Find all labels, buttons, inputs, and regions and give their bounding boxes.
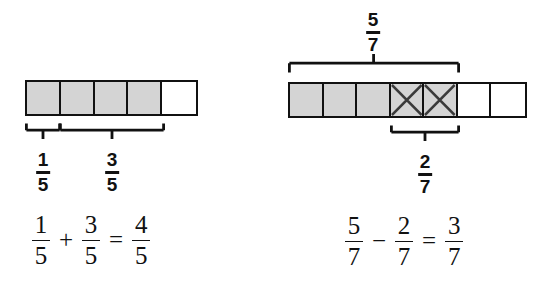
left-bar-cell-2	[61, 82, 95, 114]
left-label-three-fifths-denominator: 5	[107, 175, 118, 195]
left-equation-term-b: 3 5	[82, 212, 100, 269]
right-equation: 5 7 − 2 7 = 3 7	[343, 213, 465, 270]
left-equation-result-denominator: 5	[135, 243, 148, 269]
left-label-one-fifth-numerator: 1	[38, 150, 49, 170]
right-equation-result-denominator: 7	[448, 244, 461, 270]
left-equation-operator: +	[52, 226, 80, 254]
left-equation-term-a-numerator: 1	[35, 212, 48, 238]
right-label-two-sevenths-denominator: 7	[420, 177, 431, 197]
left-label-one-fifth: 1 5	[36, 150, 50, 195]
right-equation-operator: −	[365, 227, 393, 255]
left-bar-cell-4	[128, 82, 162, 114]
cross-out-icon	[391, 84, 423, 116]
left-equation-term-a: 1 5	[32, 212, 50, 269]
left-label-one-fifth-denominator: 5	[38, 175, 49, 195]
left-bracket-one-fifth	[25, 122, 61, 140]
right-bar-cell-2	[324, 84, 358, 116]
left-equation-equals: =	[102, 226, 130, 254]
left-equation-result: 4 5	[132, 212, 150, 269]
left-equation-term-b-numerator: 3	[85, 212, 98, 238]
left-label-three-fifths-numerator: 3	[107, 150, 118, 170]
left-bar-cell-5	[162, 82, 196, 114]
left-fraction-bar	[25, 80, 198, 116]
right-label-five-sevenths: 5 7	[366, 10, 380, 55]
right-equation-term-b-denominator: 7	[398, 244, 411, 270]
right-label-five-sevenths-denominator: 7	[368, 35, 379, 55]
right-bar-cell-6	[458, 84, 492, 116]
right-label-five-sevenths-numerator: 5	[368, 10, 379, 30]
right-equation-result-numerator: 3	[448, 213, 461, 239]
right-equation-term-a-denominator: 7	[348, 244, 361, 270]
left-bar-cell-3	[95, 82, 129, 114]
left-bar-cell-1	[27, 82, 61, 114]
right-bottom-bracket-two-sevenths	[390, 124, 460, 142]
left-label-three-fifths: 3 5	[105, 150, 119, 195]
right-fraction-bar	[288, 82, 527, 118]
right-top-bracket-five-sevenths	[288, 54, 460, 74]
left-equation-term-b-denominator: 5	[85, 243, 98, 269]
right-equation-result: 3 7	[445, 213, 463, 270]
fraction-bar-figure: 1 5 3 5 1 5 + 3 5 = 4 5 5 7	[0, 0, 541, 287]
left-bracket-three-fifths	[59, 122, 165, 140]
right-equation-term-a-numerator: 5	[348, 213, 361, 239]
right-equation-term-a: 5 7	[345, 213, 363, 270]
right-bar-cell-3	[357, 84, 391, 116]
right-bar-cell-7	[491, 84, 525, 116]
right-bar-cell-1	[290, 84, 324, 116]
right-equation-term-b-numerator: 2	[398, 213, 411, 239]
right-bar-cell-5	[424, 84, 458, 116]
cross-out-icon	[424, 84, 456, 116]
left-equation-result-numerator: 4	[135, 212, 148, 238]
right-equation-term-b: 2 7	[395, 213, 413, 270]
right-label-two-sevenths: 2 7	[418, 152, 432, 197]
right-equation-equals: =	[415, 227, 443, 255]
right-label-two-sevenths-numerator: 2	[420, 152, 431, 172]
left-equation: 1 5 + 3 5 = 4 5	[30, 212, 152, 269]
left-equation-term-a-denominator: 5	[35, 243, 48, 269]
right-bar-cell-4	[391, 84, 425, 116]
